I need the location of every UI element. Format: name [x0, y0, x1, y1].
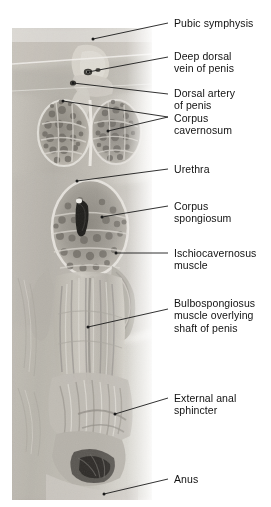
- anatomical-figure-plate: Pubic symphysis Deep dorsal vein of peni…: [0, 0, 271, 507]
- dissection-photograph: [12, 28, 152, 500]
- label-anus: Anus: [174, 473, 198, 485]
- label-pubic-symphysis: Pubic symphysis: [174, 17, 253, 29]
- label-corpus-cavernosum: Corpus cavernosum: [174, 112, 232, 137]
- label-ischiocavernosus: Ischiocavernosus muscle: [174, 247, 256, 272]
- label-deep-dorsal-vein: Deep dorsal vein of penis: [174, 50, 234, 75]
- label-urethra: Urethra: [174, 163, 210, 175]
- label-external-anal-sphincter: External anal sphincter: [174, 392, 236, 417]
- label-bulbospongiosus: Bulbospongiosus muscle overlying shaft o…: [174, 297, 255, 334]
- dissection-photograph-image: [12, 28, 152, 500]
- label-corpus-spongiosum: Corpus spongiosum: [174, 200, 231, 225]
- label-dorsal-artery: Dorsal artery of penis: [174, 87, 235, 112]
